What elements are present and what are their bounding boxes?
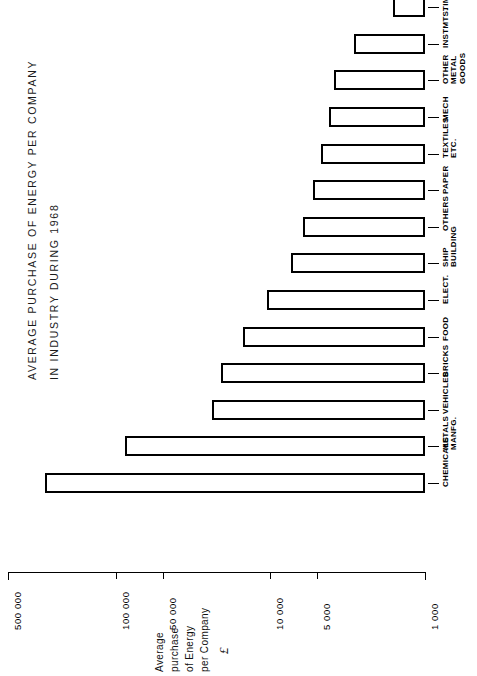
category-label-line: BRICKS xyxy=(441,345,450,377)
category-label: PAPER xyxy=(442,166,450,194)
category-label: INSTMTS. xyxy=(442,8,450,48)
category-label: VEHICLES xyxy=(442,371,450,413)
value-axis-caption: Average purchase of Energy per Company £ xyxy=(150,596,270,676)
bar-food xyxy=(243,327,425,347)
axis-tick xyxy=(317,572,318,579)
category-label: OTHERS xyxy=(442,196,450,231)
category-label-line: INSTMTS. xyxy=(441,8,450,48)
bar-elect xyxy=(267,290,425,310)
axis-tick xyxy=(116,572,117,579)
chart-figure: AVERAGE PURCHASE OF ENERGY PER COMPANY I… xyxy=(0,0,477,676)
category-tick xyxy=(428,263,439,264)
category-label-line: MANFG. xyxy=(450,416,458,450)
category-label: FOOD xyxy=(442,316,450,340)
category-tick xyxy=(428,446,439,447)
category-tick xyxy=(428,373,439,374)
axis-tick-label: 500 000 xyxy=(12,591,23,630)
category-label: SHIPBUILDING xyxy=(442,226,459,267)
category-tick xyxy=(428,117,439,118)
category-label: OTHERMETALGOODS xyxy=(442,53,467,84)
category-label: METALSMANFG. xyxy=(442,416,459,450)
bar-textiles-etc xyxy=(321,144,425,164)
category-label-line: PAPER xyxy=(441,166,450,194)
axis-tick-label: 100 000 xyxy=(120,591,131,630)
category-label-line: GOODS xyxy=(459,53,467,84)
axis-caption-line-1: Average xyxy=(154,632,165,672)
bar-ship-building xyxy=(291,253,425,273)
category-tick xyxy=(428,410,439,411)
category-label-line: TIMBER xyxy=(441,0,450,11)
category-label: TIMBER xyxy=(442,0,450,11)
category-label-line: BUILDING xyxy=(450,226,458,267)
value-axis-line xyxy=(8,572,425,573)
category-label: BRICKS xyxy=(442,345,450,377)
bar-mech xyxy=(329,107,425,127)
category-label: ELECT. xyxy=(442,275,450,304)
currency-symbol: £ xyxy=(216,648,232,655)
axis-tick-label: 5 000 xyxy=(321,603,332,630)
category-label-line: FOOD xyxy=(441,316,450,340)
category-tick xyxy=(428,337,439,338)
category-tick xyxy=(428,154,439,155)
bar-paper xyxy=(313,180,425,200)
bar-chemicals xyxy=(45,473,425,493)
category-tick xyxy=(428,80,439,81)
category-tick xyxy=(428,483,439,484)
category-label: TEXTILESETC. xyxy=(442,117,459,158)
category-label: MECH xyxy=(442,96,450,121)
bar-vehicles xyxy=(212,400,425,420)
category-label-line: ELECT. xyxy=(441,275,450,304)
axis-tick xyxy=(163,572,164,579)
category-tick xyxy=(428,44,439,45)
plot-area: CHEMICALSMETALSMANFG.VEHICLESBRICKSFOODE… xyxy=(0,0,477,676)
axis-caption-line-3: of Energy xyxy=(184,626,195,672)
category-tick xyxy=(428,227,439,228)
category-tick xyxy=(428,7,439,8)
axis-cap-right xyxy=(425,572,426,580)
category-label-line: ETC. xyxy=(450,117,458,158)
axis-tick xyxy=(270,572,271,579)
bar-timber xyxy=(393,0,425,17)
axis-cap-left xyxy=(8,572,9,580)
category-tick xyxy=(428,300,439,301)
category-label-line: MECH xyxy=(441,96,450,121)
category-label-line: VEHICLES xyxy=(441,371,450,413)
bar-metals-manfg xyxy=(125,436,425,456)
category-label-line: OTHERS xyxy=(441,196,450,231)
category-tick xyxy=(428,190,439,191)
axis-tick-label: 10 000 xyxy=(274,597,285,630)
axis-caption-line-2: purchase xyxy=(169,628,180,672)
axis-tick-label: 1 000 xyxy=(429,603,440,630)
axis-caption-line-4: per Company xyxy=(199,608,210,672)
bar-instmts xyxy=(354,34,425,54)
bar-other-metal-goods xyxy=(334,70,425,90)
bar-others xyxy=(303,217,425,237)
bar-bricks xyxy=(221,363,425,383)
